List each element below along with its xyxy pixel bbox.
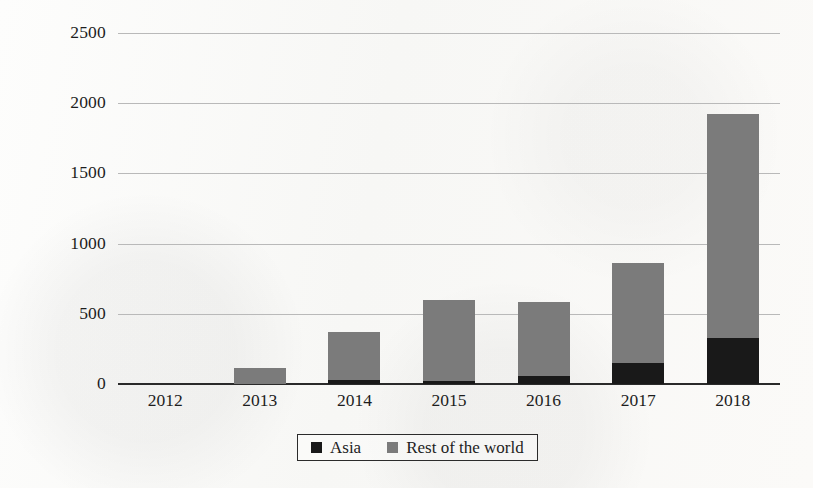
x-tick-label-2016: 2016 xyxy=(526,392,561,410)
bar-2017[interactable] xyxy=(612,263,664,384)
legend-label: Rest of the world xyxy=(406,439,524,456)
bar-segment-rest-of-the-world-2013[interactable] xyxy=(234,368,286,384)
bar-segment-rest-of-the-world-2017[interactable] xyxy=(612,263,664,363)
bar-segment-rest-of-the-world-2016[interactable] xyxy=(518,302,570,376)
bar-segment-asia-2015[interactable] xyxy=(423,381,475,385)
chart-legend: AsiaRest of the world xyxy=(297,434,538,461)
bar-segment-rest-of-the-world-2015[interactable] xyxy=(423,300,475,380)
y-tick-label-500: 500 xyxy=(79,305,106,323)
plot-area xyxy=(118,33,780,384)
bar-2014[interactable] xyxy=(328,332,380,384)
x-axis-labels: 2012201320142015201620172018 xyxy=(118,392,780,418)
gridline-2000 xyxy=(118,103,780,104)
bar-segment-asia-2018[interactable] xyxy=(707,338,759,384)
stacked-bar-chart: 05001000150020002500 2012201320142015201… xyxy=(0,0,813,488)
y-tick-label-1500: 1500 xyxy=(70,165,106,183)
bar-segment-asia-2014[interactable] xyxy=(328,380,380,384)
legend-swatch-icon-asia xyxy=(311,442,322,453)
legend-item-asia[interactable]: Asia xyxy=(311,439,361,456)
legend-item-rest-of-the-world[interactable]: Rest of the world xyxy=(387,439,524,456)
y-tick-label-1000: 1000 xyxy=(70,235,106,253)
legend-label: Asia xyxy=(330,439,361,456)
y-tick-label-0: 0 xyxy=(97,375,106,393)
gridline-1500 xyxy=(118,173,780,174)
bar-2018[interactable] xyxy=(707,114,759,384)
bar-segment-rest-of-the-world-2018[interactable] xyxy=(707,114,759,338)
x-tick-label-2015: 2015 xyxy=(432,392,467,410)
x-tick-label-2017: 2017 xyxy=(621,392,656,410)
x-tick-label-2018: 2018 xyxy=(715,392,750,410)
bar-2015[interactable] xyxy=(423,300,475,384)
bar-segment-asia-2017[interactable] xyxy=(612,363,664,384)
gridline-1000 xyxy=(118,244,780,245)
x-tick-label-2012: 2012 xyxy=(148,392,183,410)
legend-swatch-icon-rest-of-the-world xyxy=(387,442,398,453)
x-tick-label-2014: 2014 xyxy=(337,392,372,410)
y-axis: 05001000150020002500 xyxy=(0,33,118,384)
bar-segment-asia-2016[interactable] xyxy=(518,376,570,384)
bar-segment-rest-of-the-world-2014[interactable] xyxy=(328,332,380,380)
x-tick-label-2013: 2013 xyxy=(242,392,277,410)
bar-2016[interactable] xyxy=(518,302,570,384)
y-tick-label-2000: 2000 xyxy=(70,94,106,112)
gridline-2500 xyxy=(118,33,780,34)
y-tick-label-2500: 2500 xyxy=(70,24,106,42)
bar-2013[interactable] xyxy=(234,368,286,384)
